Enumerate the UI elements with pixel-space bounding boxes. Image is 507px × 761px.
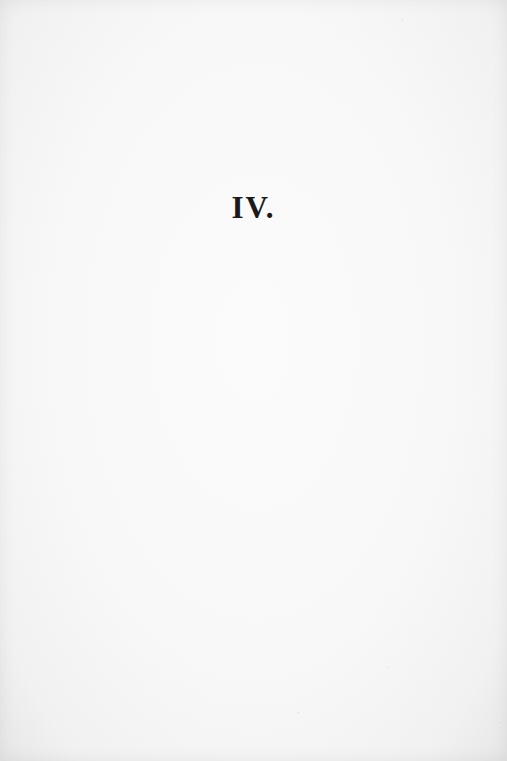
paper-speck: [402, 20, 403, 21]
paper-speck: [499, 722, 500, 723]
section-heading: IV.: [0, 188, 507, 228]
paper-speck: [388, 667, 389, 668]
paper-speck: [298, 712, 299, 713]
book-page: IV.: [0, 0, 507, 761]
